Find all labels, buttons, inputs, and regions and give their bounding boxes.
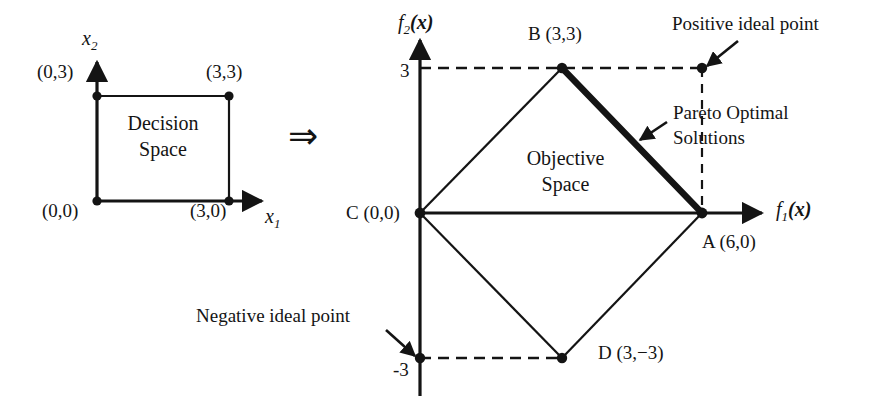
edge-C-D [420,213,562,358]
positive-ideal-leader-arrow [707,41,738,66]
objective-space-title-line1: Objective [508,145,623,171]
edge-D-A [562,213,702,358]
decision-vertex-0-3 [92,91,101,100]
pareto-label-line1: Pareto Optimal [673,100,789,125]
decision-vertex-label-3-0: (3,0) [190,201,226,220]
objective-vertex-label-C: C (0,0) [346,203,400,222]
objective-x-axis-arg: (x) [788,198,811,220]
decision-space-title: Decision Space [113,110,213,163]
decision-vertex-0-0 [92,196,101,205]
objective-x-axis-label: f1(x) [776,199,811,223]
negative-ideal-leader-arrow [386,330,415,356]
pareto-optimal-solutions-label: Pareto Optimal Solutions [673,100,789,150]
decision-vertex-label-0-3: (0,3) [37,62,73,81]
objective-space-title-line2: Space [508,171,623,197]
objective-y-axis-arg: (x) [410,11,433,33]
objective-vertex-C [415,208,426,219]
objective-vertex-label-D: D (3,−3) [598,343,664,362]
decision-x-axis-subscript: 1 [274,216,281,231]
objective-vertex-A [697,208,708,219]
pareto-leader-arrow [640,122,667,140]
objective-vertex-B [557,63,567,73]
positive-ideal-point-label: Positive ideal point [672,14,819,33]
decision-vertex-label-0-0: (0,0) [42,201,78,220]
objective-y-axis-label: f2(x) [398,12,433,36]
decision-space-title-line1: Decision [113,110,213,136]
objective-space-title: Objective Space [508,145,623,198]
positive-ideal-point-marker [697,63,707,73]
diagram-canvas [0,0,877,411]
decision-vertex-3-3 [224,91,233,100]
negative-ideal-point-marker [415,353,425,363]
y-tick-label-negative-3: -3 [393,360,409,379]
decision-x-axis-symbol: x [265,205,274,227]
figure-root: x2 x1 (0,3) (3,3) (0,0) (3,0) Decision S… [0,0,877,411]
decision-space-title-line2: Space [113,136,213,162]
decision-y-axis-subscript: 2 [91,38,98,53]
objective-space-group [386,40,762,396]
pareto-label-line2: Solutions [673,125,789,150]
objective-vertex-label-A: A (6,0) [702,232,756,251]
decision-vertex-label-3-3: (3,3) [206,62,242,81]
objective-vertex-label-B: B (3,3) [528,24,582,43]
objective-vertex-D [557,353,567,363]
negative-ideal-point-label: Negative ideal point [196,306,350,325]
decision-x-axis-label: x1 [265,206,280,230]
implication-arrow-icon: ⇒ [288,118,318,154]
decision-y-axis-label: x2 [82,28,97,52]
decision-y-axis-symbol: x [82,27,91,49]
y-tick-label-positive-3: 3 [400,61,410,80]
